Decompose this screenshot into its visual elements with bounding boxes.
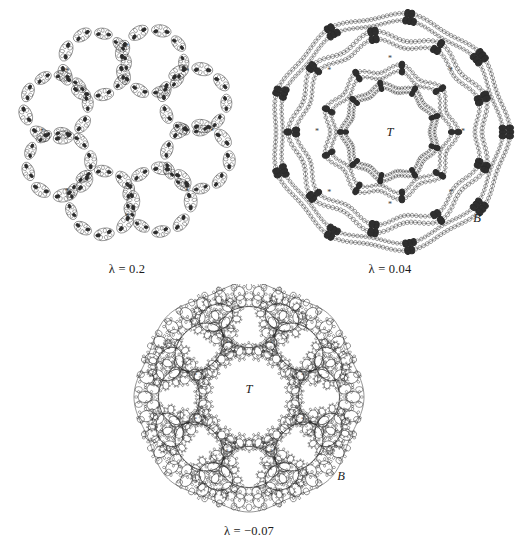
asterisk-marker: * [210, 127, 214, 136]
asterisk-marker: * [194, 415, 197, 422]
asterisk-marker: * [270, 447, 273, 454]
asterisk-marker: * [185, 187, 189, 196]
asterisk-marker: * [225, 339, 228, 346]
panel-lambda-0.04: ********TB [264, 6, 516, 258]
label-B: B [473, 211, 481, 225]
asterisk-marker: * [388, 200, 392, 209]
apollonian-group: ********TB [134, 284, 364, 512]
asterisk-marker: * [40, 127, 44, 136]
limit-set-drawing-c: ********TB [132, 284, 366, 516]
nested-rings-group: ********TB [272, 9, 514, 255]
label-T: T [246, 382, 254, 396]
asterisk-marker: * [125, 212, 129, 221]
asterisk-marker: * [461, 127, 465, 136]
label-B: B [337, 469, 345, 483]
asterisk-marker: * [65, 187, 69, 196]
panel-lambda-minus-0.07: ********TB [132, 284, 366, 516]
limit-set-drawing-a: ******** [2, 6, 252, 258]
asterisk-marker: * [449, 66, 453, 75]
asterisk-marker: * [194, 371, 197, 378]
asterisk-marker: * [125, 42, 129, 51]
caption-lambda-minus-0.07: λ = −0.07 [112, 524, 386, 539]
asterisk-marker: * [449, 188, 453, 197]
asterisk-marker: * [270, 339, 273, 346]
asterisk-marker: * [225, 447, 228, 454]
asterisk-marker: * [185, 67, 189, 76]
limit-set-drawing-b: ********TB [264, 6, 516, 258]
label-T: T [387, 125, 395, 139]
caption-lambda-0.2: λ = 0.2 [2, 262, 252, 277]
asterisk-marker: * [388, 54, 392, 63]
asterisk-marker: * [327, 66, 331, 75]
asterisk-marker: * [301, 371, 304, 378]
asterisk-marker: * [65, 67, 69, 76]
figure-plate: ******** λ = 0.2 ********TB λ = 0.04 ***… [0, 0, 517, 555]
panel-lambda-0.2: ******** [2, 6, 252, 258]
necklace-group: ******** [16, 22, 235, 242]
asterisk-marker: * [327, 188, 331, 197]
asterisk-marker: * [315, 127, 319, 136]
caption-lambda-0.04: λ = 0.04 [264, 262, 516, 277]
asterisk-marker: * [301, 415, 304, 422]
